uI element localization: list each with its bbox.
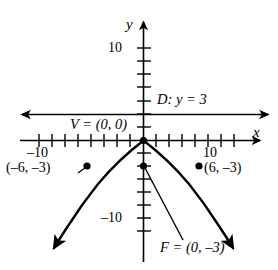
y-axis-label: y: [126, 17, 133, 32]
right-point-label: (6, –3): [204, 161, 241, 175]
figure-canvas: [0, 0, 278, 270]
focus-label: F = (0, –3): [160, 240, 225, 255]
x-axis-label: x: [253, 125, 260, 140]
y-tick-label-10: 10: [108, 41, 122, 55]
x-tick-label-neg10: –10: [27, 146, 48, 160]
focus-leader-line: [145, 168, 183, 240]
left-point-leader-line: [78, 168, 85, 173]
vertex-point-marker: [140, 137, 147, 144]
left-point-label: (–6, –3): [6, 161, 50, 175]
directrix-label: D: y = 3: [157, 92, 207, 107]
x-tick-label-10: 10: [203, 146, 217, 160]
vertex-label: V = (0, 0): [70, 117, 127, 132]
parabola-figure: y x 10 –10 –10 10 D: y = 3 V = (0, 0) F …: [0, 0, 278, 270]
right-point-marker: [195, 162, 202, 169]
y-tick-label-neg10: –10: [101, 211, 122, 225]
